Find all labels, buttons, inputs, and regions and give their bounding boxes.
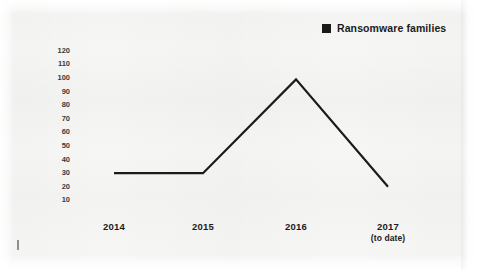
y-axis-tick-label: 10 bbox=[48, 196, 70, 204]
x-axis-tick-label: 2016 bbox=[256, 221, 336, 233]
x-axis-tick: 2015 bbox=[163, 221, 243, 233]
x-axis-tick: 2017(to date) bbox=[348, 221, 428, 244]
x-axis: 2014201520162017(to date) bbox=[72, 221, 432, 257]
y-axis-tick-label: 60 bbox=[48, 128, 70, 136]
y-axis-tick-label: 120 bbox=[48, 47, 70, 55]
x-axis-tick: 2016 bbox=[256, 221, 336, 233]
page-edge-left bbox=[0, 0, 14, 269]
legend-swatch-square-icon bbox=[322, 24, 331, 33]
y-axis: 102030405060708090100110120 bbox=[48, 44, 70, 214]
y-axis-tick-label: 20 bbox=[48, 183, 70, 191]
y-axis-tick-label: 100 bbox=[48, 74, 70, 82]
y-axis-tick-label: 110 bbox=[48, 60, 70, 68]
x-axis-tick-sublabel: (to date) bbox=[348, 233, 428, 244]
line-chart-svg bbox=[72, 44, 432, 214]
chart-legend: Ransomware families bbox=[322, 22, 446, 34]
y-axis-tick-label: 30 bbox=[48, 169, 70, 177]
y-axis-tick-label: 40 bbox=[48, 156, 70, 164]
chart-page: Ransomware families 10203040506070809010… bbox=[0, 0, 477, 269]
scan-artifact-mark bbox=[17, 240, 19, 250]
y-axis-tick-label: 80 bbox=[48, 101, 70, 109]
plot-area bbox=[72, 44, 432, 214]
page-edge-right bbox=[461, 0, 477, 269]
page-edge-top bbox=[0, 0, 477, 14]
legend-label: Ransomware families bbox=[337, 22, 446, 34]
series-line-ransomware-families bbox=[114, 79, 388, 186]
page-edge-bottom bbox=[0, 255, 477, 269]
x-axis-tick-label: 2015 bbox=[163, 221, 243, 233]
x-axis-tick-label: 2014 bbox=[74, 221, 154, 233]
y-axis-tick-label: 50 bbox=[48, 142, 70, 150]
y-axis-tick-label: 90 bbox=[48, 88, 70, 96]
x-axis-tick-label: 2017 bbox=[348, 221, 428, 233]
y-axis-tick-label: 70 bbox=[48, 115, 70, 123]
x-axis-tick: 2014 bbox=[74, 221, 154, 233]
